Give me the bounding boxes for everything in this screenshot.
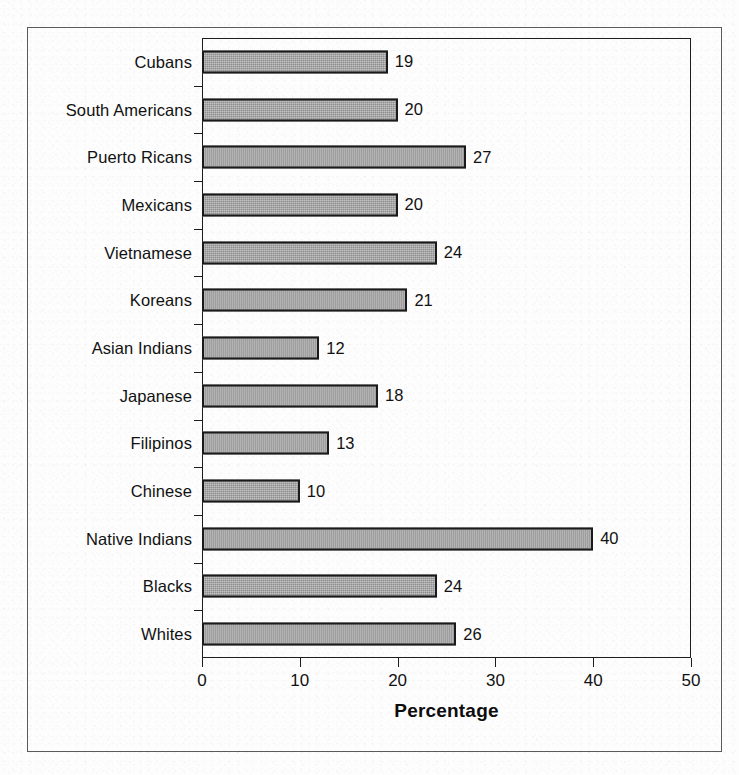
bar-row[interactable]: 21 — [202, 289, 691, 312]
bar-row[interactable]: 24 — [202, 575, 691, 598]
x-axis-tick — [202, 658, 203, 667]
y-axis-tick — [194, 324, 202, 325]
y-axis-label: Puerto Ricans — [20, 148, 192, 167]
bar-value-label: 24 — [444, 577, 462, 596]
x-axis-tick — [300, 658, 301, 667]
y-axis-label: Koreans — [20, 291, 192, 310]
bar-value-label: 18 — [385, 386, 403, 405]
x-axis-tick-label: 0 — [197, 671, 206, 691]
chart-page: CubansSouth AmericansPuerto RicansMexica… — [0, 0, 739, 775]
bar-row[interactable]: 13 — [202, 432, 691, 455]
x-axis-tick — [593, 658, 594, 667]
bar-value-label: 40 — [600, 529, 618, 548]
bar[interactable] — [202, 575, 437, 598]
bar-chart: CubansSouth AmericansPuerto RicansMexica… — [0, 0, 739, 775]
bar[interactable] — [202, 193, 398, 216]
bar-row[interactable]: 40 — [202, 527, 691, 550]
x-axis-title: Percentage — [202, 700, 691, 722]
bar-row[interactable]: 26 — [202, 623, 691, 646]
x-axis-tick — [495, 658, 496, 667]
bar[interactable] — [202, 432, 329, 455]
y-axis-label: Filipinos — [20, 434, 192, 453]
bar[interactable] — [202, 146, 466, 169]
y-axis-tick — [194, 420, 202, 421]
y-axis-tick — [194, 133, 202, 134]
y-axis-tick — [194, 181, 202, 182]
y-axis-label: Blacks — [20, 577, 192, 596]
bar-value-label: 20 — [405, 195, 423, 214]
y-axis-category-labels: CubansSouth AmericansPuerto RicansMexica… — [20, 38, 192, 658]
y-axis-tick — [194, 372, 202, 373]
y-axis-tick — [194, 467, 202, 468]
bar-row[interactable]: 10 — [202, 480, 691, 503]
bar-value-label: 19 — [395, 52, 413, 71]
x-axis-tick — [398, 658, 399, 667]
bar-value-label: 26 — [463, 625, 481, 644]
bar-value-label: 10 — [307, 482, 325, 501]
bar-row[interactable]: 18 — [202, 384, 691, 407]
y-axis-tick — [194, 610, 202, 611]
y-axis-label: Japanese — [20, 386, 192, 405]
bar-value-label: 24 — [444, 243, 462, 262]
bar[interactable] — [202, 384, 378, 407]
y-axis-label: Mexicans — [20, 195, 192, 214]
y-axis-tick — [194, 515, 202, 516]
y-axis-tick — [194, 86, 202, 87]
bar[interactable] — [202, 623, 456, 646]
bar-value-label: 27 — [473, 148, 491, 167]
y-axis-label: Cubans — [20, 52, 192, 71]
bar-value-label: 20 — [405, 100, 423, 119]
bar-value-label: 13 — [336, 434, 354, 453]
bar-row[interactable]: 19 — [202, 50, 691, 73]
x-axis-tick — [691, 658, 692, 667]
y-axis-label: Asian Indians — [20, 339, 192, 358]
bar-row[interactable]: 27 — [202, 146, 691, 169]
y-axis-label: Native Indians — [20, 529, 192, 548]
bars-layer: 19202720242112181310402426 — [202, 38, 691, 658]
y-axis-tick — [194, 563, 202, 564]
x-axis-tick-label: 30 — [486, 671, 505, 691]
x-axis-tick-label: 10 — [290, 671, 309, 691]
y-axis-label: Whites — [20, 625, 192, 644]
bar-row[interactable]: 20 — [202, 193, 691, 216]
bar[interactable] — [202, 480, 300, 503]
x-axis-tick-label: 20 — [388, 671, 407, 691]
bar[interactable] — [202, 50, 388, 73]
x-axis-tick-label: 50 — [682, 671, 701, 691]
bar-row[interactable]: 12 — [202, 337, 691, 360]
x-axis-tick-label: 40 — [584, 671, 603, 691]
bar[interactable] — [202, 98, 398, 121]
bar[interactable] — [202, 241, 437, 264]
y-axis-label: Chinese — [20, 482, 192, 501]
y-axis-tick — [194, 276, 202, 277]
bar[interactable] — [202, 337, 319, 360]
bar[interactable] — [202, 289, 407, 312]
y-axis-tick — [194, 229, 202, 230]
bar-value-label: 21 — [414, 291, 432, 310]
bar-row[interactable]: 20 — [202, 98, 691, 121]
y-axis-label: South Americans — [20, 100, 192, 119]
bar[interactable] — [202, 527, 593, 550]
bar-value-label: 12 — [326, 339, 344, 358]
bar-row[interactable]: 24 — [202, 241, 691, 264]
y-axis-label: Vietnamese — [20, 243, 192, 262]
